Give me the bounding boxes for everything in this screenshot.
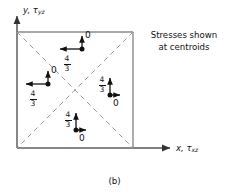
fraction-numerator: 4 xyxy=(97,76,107,84)
centroid-top xyxy=(60,36,85,52)
centroid-top-vertical-value: 0 xyxy=(85,31,91,40)
centroid-bottom-horizontal-value: 0 xyxy=(79,134,85,143)
centroid-left-vertical-value: 0 xyxy=(51,66,57,75)
centroid-bottom xyxy=(74,113,87,133)
fraction-numerator: 4 xyxy=(28,90,38,98)
centroid-right-horizontal-value: 0 xyxy=(113,99,119,108)
centroid-bottom-vertical-value: 4 3 xyxy=(63,111,73,129)
stresses-note-line2: at centroids xyxy=(158,42,209,52)
centroid-left-horizontal-value: 4 3 xyxy=(28,90,38,108)
stress-diagram: y, τyz x, τxz Stresses shown at centroid… xyxy=(0,0,229,196)
x-axis-label: x, τxz xyxy=(176,144,198,153)
y-axis-tau-subscript: yz xyxy=(38,8,45,15)
centroid-top-horizontal-value: 4 3 xyxy=(62,55,72,73)
stresses-note: Stresses shown at centroids xyxy=(143,30,225,53)
stresses-note-line1: Stresses shown xyxy=(151,30,218,40)
y-axis-label: y, τyz xyxy=(23,6,45,15)
fraction-numerator: 4 xyxy=(63,111,73,119)
fraction-denominator: 3 xyxy=(62,65,72,73)
centroid-right-vertical-value: 4 3 xyxy=(97,76,107,94)
fraction-denominator: 3 xyxy=(63,121,73,129)
centroid-left xyxy=(26,71,51,87)
figure-caption: (b) xyxy=(0,176,229,186)
centroid-right xyxy=(108,78,121,98)
fraction-denominator: 3 xyxy=(97,86,107,94)
fraction-numerator: 4 xyxy=(62,55,72,63)
x-axis-tau-subscript: xz xyxy=(192,146,199,153)
fraction-denominator: 3 xyxy=(28,100,38,108)
